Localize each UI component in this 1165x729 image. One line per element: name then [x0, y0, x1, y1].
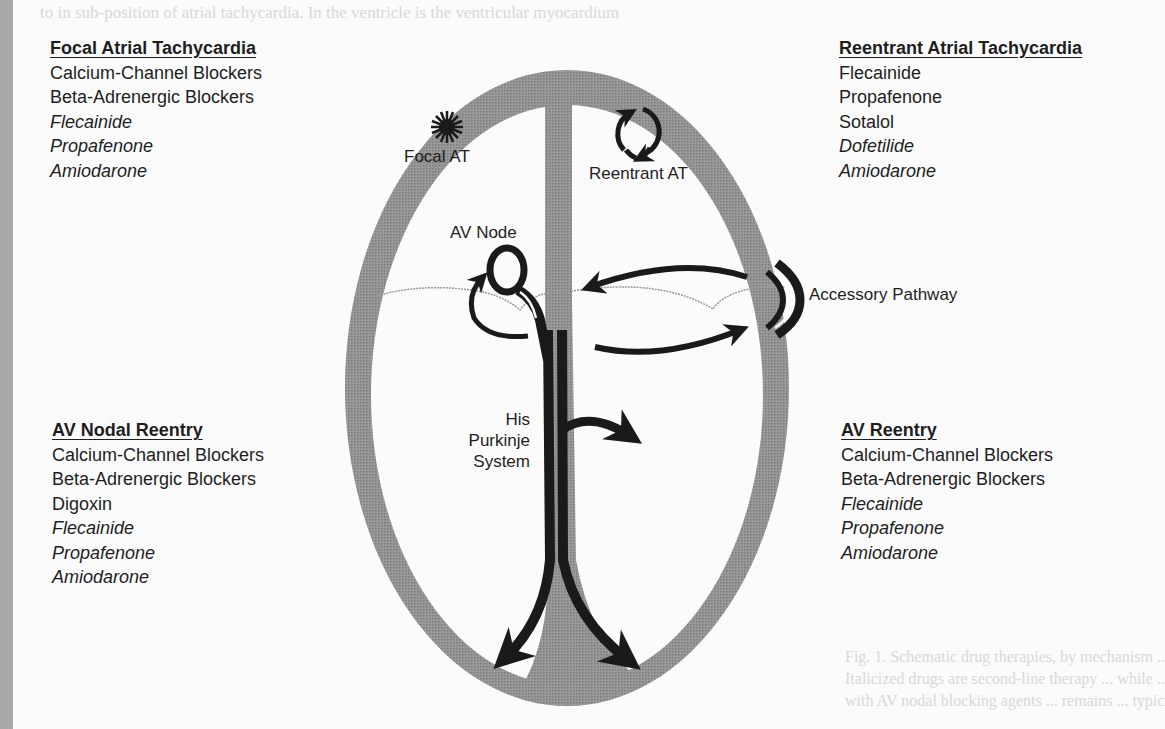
- accessory-pathway-label: Accessory Pathway: [809, 284, 957, 305]
- focal-at-label: Focal AT: [404, 146, 470, 167]
- drug-item: Amiodarone: [52, 565, 264, 590]
- drug-item: Digoxin: [52, 492, 264, 517]
- av-node-label: AV Node: [450, 222, 517, 243]
- av-reentry-block: AV Reentry Calcium-Channel Blockers Beta…: [841, 418, 1053, 565]
- drug-item: Sotalol: [839, 110, 1082, 135]
- drug-item: Beta-Adrenergic Blockers: [50, 85, 262, 110]
- drug-item: Amiodarone: [841, 541, 1053, 566]
- his-purkinje-label: His Purkinje System: [440, 409, 530, 472]
- focal-atrial-tachycardia-block: Focal Atrial Tachycardia Calcium-Channel…: [50, 36, 262, 183]
- reentrant-at-label: Reentrant AT: [589, 163, 688, 184]
- av-nodal-reentry-block: AV Nodal Reentry Calcium-Channel Blocker…: [52, 418, 264, 590]
- drug-item: Propafenone: [839, 85, 1082, 110]
- drug-item: Flecainide: [52, 516, 264, 541]
- block-title: AV Nodal Reentry: [52, 418, 264, 443]
- interatrial-septum: [545, 92, 572, 300]
- drug-item: Flecainide: [50, 110, 262, 135]
- drug-item: Calcium-Channel Blockers: [841, 443, 1053, 468]
- drug-item: Calcium-Channel Blockers: [50, 61, 262, 86]
- drug-item: Amiodarone: [50, 159, 262, 184]
- drug-item: Beta-Adrenergic Blockers: [52, 467, 264, 492]
- his-purkinje-line: System: [440, 451, 530, 472]
- drug-item: Propafenone: [841, 516, 1053, 541]
- block-title: Focal Atrial Tachycardia: [50, 36, 262, 61]
- drug-item: Propafenone: [50, 134, 262, 159]
- drug-item: Calcium-Channel Blockers: [52, 443, 264, 468]
- reentrant-atrial-tachycardia-block: Reentrant Atrial Tachycardia Flecainide …: [839, 36, 1082, 183]
- drug-item: Flecainide: [839, 61, 1082, 86]
- his-purkinje-line: Purkinje: [440, 430, 530, 451]
- his-purkinje-line: His: [440, 409, 530, 430]
- block-title: Reentrant Atrial Tachycardia: [839, 36, 1082, 61]
- block-title: AV Reentry: [841, 418, 1053, 443]
- drug-item: Beta-Adrenergic Blockers: [841, 467, 1053, 492]
- drug-item: Flecainide: [841, 492, 1053, 517]
- drug-item: Amiodarone: [839, 159, 1082, 184]
- drug-item: Dofetilide: [839, 134, 1082, 159]
- drug-item: Propafenone: [52, 541, 264, 566]
